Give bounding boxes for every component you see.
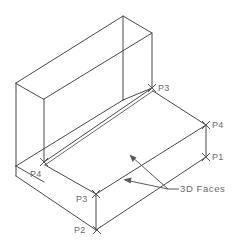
three-d-faces-label: 3D Faces — [180, 183, 225, 194]
point-label-p3-top: P3 — [158, 83, 169, 93]
slab-top-left-edge — [45, 165, 96, 194]
leader-arrowhead-upper — [130, 155, 137, 162]
wall-front-bottom-edge — [44, 88, 152, 162]
three-d-faces-leader: 3D Faces — [124, 155, 226, 195]
point-label-p2-bottom: P2 — [74, 225, 85, 235]
wall-back-bottom-edge — [16, 100, 123, 166]
wall-top-face — [16, 16, 152, 99]
point-label-p4-right: P4 — [212, 120, 223, 130]
wall-front-bottom-edge-offset — [45, 91, 153, 165]
slab-top-right-edge — [153, 91, 206, 125]
point-label-p4-left: P4 — [30, 169, 41, 179]
point-label-p3-bottom: P3 — [76, 194, 87, 204]
leader-arrowhead-lower — [124, 178, 132, 184]
leader-line-lower — [125, 180, 168, 189]
point-label-p1-right: P1 — [212, 152, 223, 162]
x-marker — [93, 226, 101, 234]
isometric-drawing-canvas: P3 P4 P1 P4 P3 P2 3D Faces — [0, 0, 234, 243]
drawing-svg: P3 P4 P1 P4 P3 P2 3D Faces — [0, 0, 234, 243]
